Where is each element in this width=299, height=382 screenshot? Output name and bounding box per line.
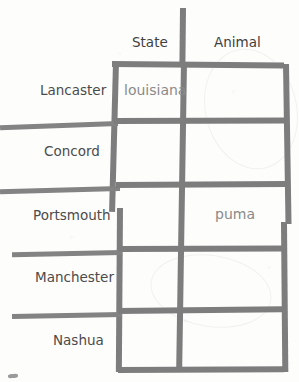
- row-separator: [0, 186, 120, 194]
- row-label-concord: Concord: [44, 145, 100, 159]
- row-label-nashua: Nashua: [53, 334, 104, 348]
- grid-left-border: [109, 62, 119, 212]
- grid-right-border: [283, 64, 292, 224]
- row-separator: [118, 245, 284, 252]
- paper-texture: [0, 0, 299, 382]
- grid-bottom-border: [118, 366, 284, 373]
- paper-smudge: [192, 39, 299, 180]
- grid-column-divider: [179, 8, 186, 64]
- grid-top-border: [112, 61, 284, 69]
- row-separator: [12, 250, 122, 257]
- row-separator: [118, 306, 282, 314]
- row-label-lancaster: Lancaster: [40, 84, 106, 98]
- row-label-portsmouth: Portsmouth: [33, 209, 111, 223]
- grid-left-border: [116, 208, 123, 372]
- grid-right-border: [281, 222, 288, 372]
- column-header-animal: Animal: [214, 36, 261, 50]
- cell-portsmouth-animal[interactable]: puma: [215, 207, 255, 221]
- stray-pen-mark: [8, 373, 18, 378]
- cell-lancaster-state[interactable]: louisiana: [124, 83, 186, 97]
- row-separator: [116, 181, 286, 188]
- row-separator: [12, 312, 122, 319]
- row-separator: [0, 121, 118, 130]
- column-header-state: State: [132, 36, 168, 50]
- paper-smudge: [145, 246, 277, 336]
- sketch-table-page: State Animal Lancaster Concord Portsmout…: [0, 0, 299, 382]
- grid-column-divider: [176, 62, 187, 370]
- row-label-manchester: Manchester: [35, 271, 114, 285]
- row-separator: [114, 117, 286, 124]
